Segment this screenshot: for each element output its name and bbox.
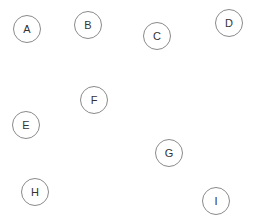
- node-label: H: [31, 186, 39, 198]
- node-f[interactable]: F: [80, 86, 108, 114]
- node-e[interactable]: E: [12, 111, 40, 139]
- node-label: D: [225, 17, 233, 29]
- node-label: B: [84, 19, 91, 31]
- node-label: F: [91, 94, 98, 106]
- diagram-canvas: A B C D E F G H I: [0, 0, 257, 224]
- node-label: C: [153, 30, 161, 42]
- node-g[interactable]: G: [155, 139, 183, 167]
- node-d[interactable]: D: [215, 9, 243, 37]
- node-h[interactable]: H: [21, 178, 49, 206]
- node-i[interactable]: I: [202, 187, 230, 215]
- node-c[interactable]: C: [143, 22, 171, 50]
- node-label: A: [23, 23, 30, 35]
- node-label: G: [165, 147, 174, 159]
- node-b[interactable]: B: [74, 11, 102, 39]
- node-label: I: [214, 195, 217, 207]
- node-a[interactable]: A: [13, 15, 41, 43]
- node-label: E: [22, 119, 29, 131]
